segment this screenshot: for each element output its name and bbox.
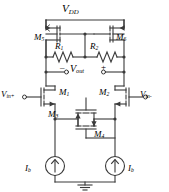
ground-symbol	[55, 182, 115, 190]
label-m2: M2	[99, 88, 109, 98]
gate-bias-node	[83, 32, 86, 58]
current-source-ib-right	[106, 157, 125, 183]
label-m5: M5	[34, 33, 44, 43]
label-r1: R1	[55, 42, 63, 52]
node-dot	[44, 55, 47, 58]
label-ib-right: Ib	[128, 164, 134, 174]
resistor-r1	[46, 40, 85, 62]
label-vdd: VDD	[62, 3, 79, 15]
label-vin-plus: Vin+	[1, 90, 15, 100]
label-m3: M3	[48, 110, 58, 120]
label-r2: R2	[90, 42, 98, 52]
vout-rail	[44, 70, 125, 73]
label-vout-plus: +	[101, 63, 106, 72]
label-ib-left: Ib	[25, 164, 31, 174]
current-source-ib-left	[46, 157, 65, 183]
label-m6: M6	[116, 33, 126, 43]
transistor-m3	[55, 98, 96, 126]
label-m1: M1	[59, 88, 69, 98]
transistor-m2	[115, 86, 143, 118]
vout-minus-terminal	[65, 70, 69, 74]
vdd-rail	[46, 20, 124, 27]
label-vin-minus: Vin-	[140, 90, 152, 100]
label-vout-minus: –	[60, 63, 65, 72]
vin-plus-terminal	[23, 95, 27, 99]
transistor-m6	[94, 20, 125, 72]
resistor-r2	[85, 52, 124, 62]
circuit-schematic-figure: VDD M5 M6 R1 R2 – Vout + Vin+ Vin- M1 M2…	[0, 0, 169, 192]
label-m4: M4	[94, 130, 104, 140]
node-dot	[122, 55, 125, 58]
label-vout: Vout	[70, 64, 84, 75]
